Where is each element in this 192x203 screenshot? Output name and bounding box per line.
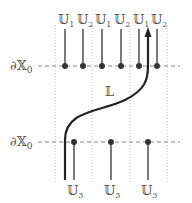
bottom-label: 𝕌3 <box>104 183 120 200</box>
bottom-label: 𝕌3 <box>141 183 157 200</box>
top-label: 𝕌1 <box>133 12 149 29</box>
curve-label: 𝕃 <box>105 84 114 99</box>
boundary-label-top: ∂𝕏0 <box>10 58 33 75</box>
curve-L <box>65 36 148 180</box>
diagram-canvas: ∂𝕏0 ∂𝕏0 𝕃 𝕌1 𝕌2 𝕌1 𝕌2 𝕌1 𝕌2 𝕌3 𝕌3 𝕌3 <box>0 0 192 203</box>
boundary-lines <box>38 66 180 142</box>
top-label: 𝕌1 <box>95 12 111 29</box>
bottom-label: 𝕌3 <box>67 183 83 200</box>
bottom-labels: 𝕌3 𝕌3 𝕌3 <box>67 183 157 200</box>
top-label: 𝕌2 <box>114 12 130 29</box>
top-label: 𝕌1 <box>58 12 74 29</box>
top-label: 𝕌2 <box>151 12 167 29</box>
top-label: 𝕌2 <box>77 12 93 29</box>
bottom-strands <box>72 140 151 180</box>
top-labels: 𝕌1 𝕌2 𝕌1 𝕌2 𝕌1 𝕌2 <box>58 12 167 29</box>
top-strands <box>63 29 160 68</box>
boundary-label-bottom: ∂𝕏0 <box>10 134 33 151</box>
